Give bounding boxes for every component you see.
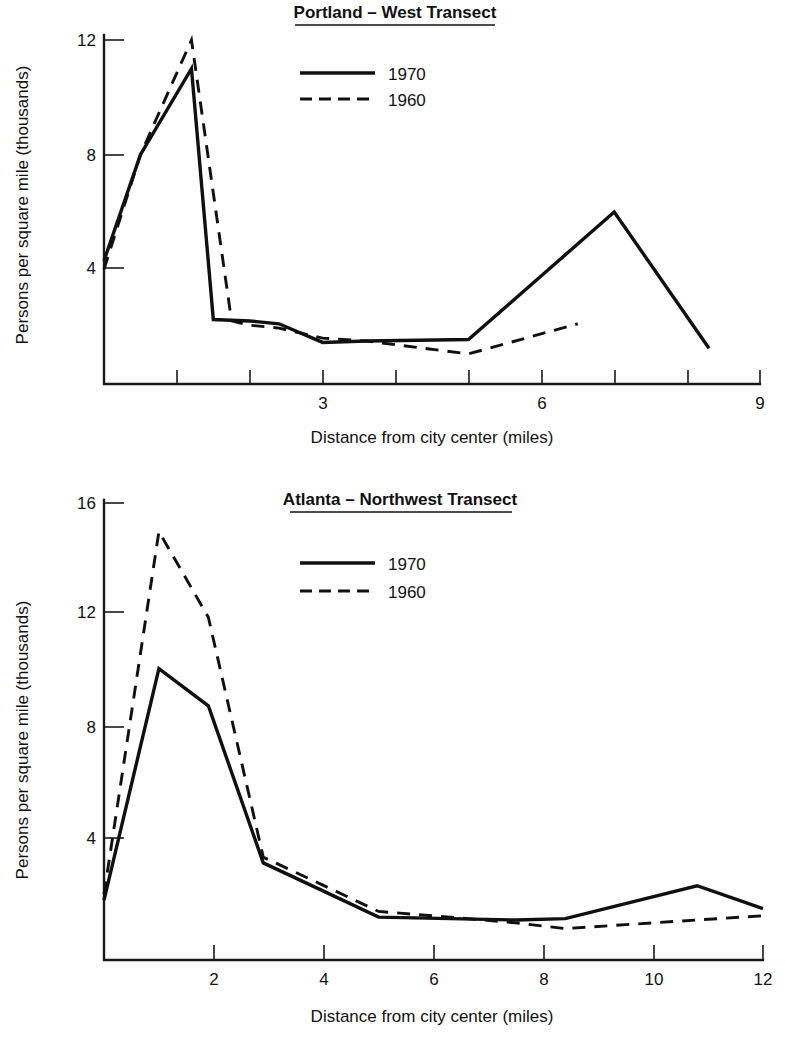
x-tick-label-4-atlanta: 4 bbox=[319, 970, 328, 989]
figure-two-transect-density-charts: Portland – West Transect Persons per squ… bbox=[0, 0, 786, 1043]
atlanta-chart-svg: Atlanta – Northwest Transect Persons per… bbox=[0, 460, 786, 1043]
portland-chart-svg: Portland – West Transect Persons per squ… bbox=[0, 0, 786, 460]
legend-atlanta: 1970 1960 bbox=[300, 555, 426, 602]
y-tick-label-12-portland: 12 bbox=[77, 31, 96, 50]
x-tick-label-3-portland: 3 bbox=[318, 394, 327, 413]
series-line-1970-portland bbox=[104, 69, 709, 349]
x-tick-label-10-atlanta: 10 bbox=[645, 970, 664, 989]
x-tick-label-12-atlanta: 12 bbox=[754, 970, 773, 989]
chart-panel-atlanta: Atlanta – Northwest Transect Persons per… bbox=[0, 460, 786, 1043]
y-tick-label-8-atlanta: 8 bbox=[87, 718, 96, 737]
legend-label-1970-portland: 1970 bbox=[388, 65, 426, 84]
legend-label-1960-portland: 1960 bbox=[388, 91, 426, 110]
x-axis-label-portland: Distance from city center (miles) bbox=[311, 428, 554, 447]
y-ticks-atlanta bbox=[104, 503, 124, 838]
y-axis-label-portland: Persons per square mile (thousands) bbox=[13, 66, 32, 345]
y-tick-label-8-portland: 8 bbox=[87, 146, 96, 165]
y-tick-label-4-portland: 4 bbox=[87, 259, 96, 278]
y-tick-label-4-atlanta: 4 bbox=[87, 829, 96, 848]
x-ticks-atlanta bbox=[214, 945, 763, 960]
y-tick-label-12-atlanta: 12 bbox=[77, 603, 96, 622]
x-tick-label-8-atlanta: 8 bbox=[539, 970, 548, 989]
series-line-1960-atlanta bbox=[104, 532, 763, 929]
x-tick-label-6-portland: 6 bbox=[537, 394, 546, 413]
legend-label-1960-atlanta: 1960 bbox=[388, 583, 426, 602]
x-tick-label-2-atlanta: 2 bbox=[209, 970, 218, 989]
y-axis-label-atlanta: Persons per square mile (thousands) bbox=[13, 601, 32, 880]
series-line-1970-atlanta bbox=[104, 669, 763, 920]
legend-portland: 1970 1960 bbox=[300, 65, 426, 110]
chart-panel-portland: Portland – West Transect Persons per squ… bbox=[0, 0, 786, 460]
x-ticks-portland bbox=[177, 370, 760, 384]
x-tick-label-6-atlanta: 6 bbox=[429, 970, 438, 989]
chart-title-portland: Portland – West Transect bbox=[294, 3, 497, 22]
legend-label-1970-atlanta: 1970 bbox=[388, 555, 426, 574]
x-axis-label-atlanta: Distance from city center (miles) bbox=[311, 1007, 554, 1026]
chart-title-atlanta: Atlanta – Northwest Transect bbox=[283, 490, 518, 509]
axis-lines-atlanta bbox=[104, 500, 763, 960]
y-tick-label-16-atlanta: 16 bbox=[77, 494, 96, 513]
x-tick-label-9-portland: 9 bbox=[755, 394, 764, 413]
